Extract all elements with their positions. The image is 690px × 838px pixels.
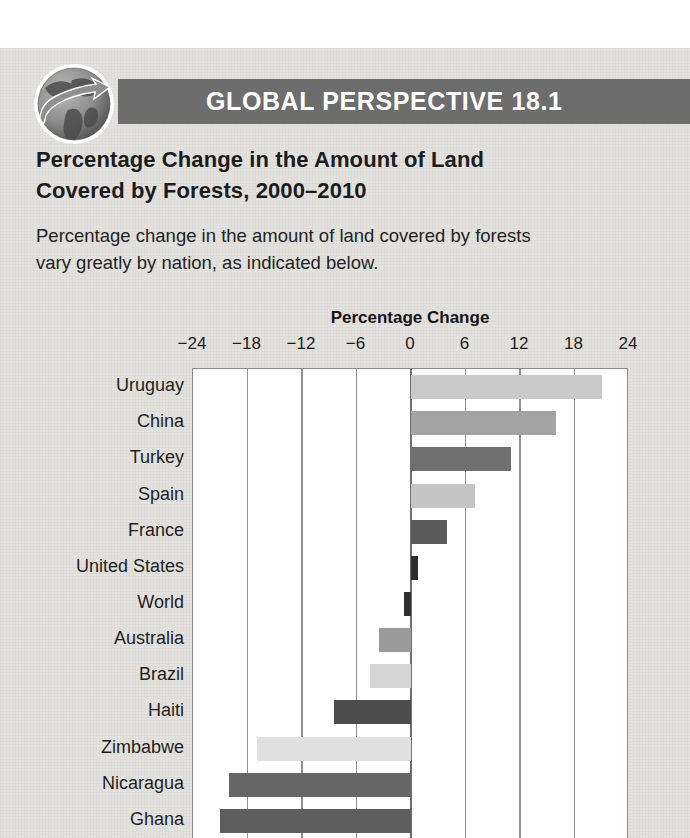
bar bbox=[411, 556, 418, 580]
lead-paragraph: Percentage change in the amount of land … bbox=[36, 222, 654, 276]
bar bbox=[257, 737, 411, 761]
section-banner: GLOBAL PERSPECTIVE 18.1 bbox=[118, 79, 690, 124]
chart-axis-title: Percentage Change bbox=[192, 308, 628, 328]
category-label: China bbox=[6, 411, 192, 432]
category-label: Australia bbox=[6, 628, 192, 649]
globe-with-arrow-icon bbox=[28, 58, 120, 150]
bar bbox=[220, 809, 411, 833]
category-label: Turkey bbox=[6, 447, 192, 468]
bar bbox=[229, 773, 411, 797]
textbook-page: GLOBAL PERSPECTIVE 18.1 Percentage Chang… bbox=[0, 0, 690, 838]
banner-title: GLOBAL PERSPECTIVE 18.1 bbox=[206, 87, 563, 116]
page-title-line-2: Covered by Forests, 2000–2010 bbox=[36, 175, 656, 206]
gridline bbox=[465, 369, 467, 838]
x-tick-label: 0 bbox=[405, 334, 414, 354]
category-label: Zimbabwe bbox=[6, 737, 192, 758]
gridline bbox=[356, 369, 358, 838]
category-label: Nicaragua bbox=[6, 773, 192, 794]
x-tick-label: 18 bbox=[564, 334, 583, 354]
category-label: United States bbox=[6, 556, 192, 577]
gridline bbox=[519, 369, 521, 838]
gridline bbox=[247, 369, 249, 838]
x-tick-label: −6 bbox=[346, 334, 365, 354]
x-tick-label: 12 bbox=[510, 334, 529, 354]
gridline bbox=[301, 369, 303, 838]
x-tick-label: 24 bbox=[619, 334, 638, 354]
plot-area bbox=[192, 368, 628, 838]
category-label: Haiti bbox=[6, 700, 192, 721]
x-axis-tick-labels: −24−18−12−606121824 bbox=[0, 334, 690, 358]
lead-line-1: Percentage change in the amount of land … bbox=[36, 222, 654, 249]
x-tick-label: 6 bbox=[460, 334, 469, 354]
bar bbox=[334, 700, 411, 724]
category-label: World bbox=[6, 592, 192, 613]
bar-chart: Percentage Change −24−18−12−606121824 Ur… bbox=[0, 300, 690, 838]
bar bbox=[411, 411, 556, 435]
lead-line-2: vary greatly by nation, as indicated bel… bbox=[36, 249, 654, 276]
category-label: Brazil bbox=[6, 664, 192, 685]
category-label: France bbox=[6, 520, 192, 541]
x-tick-label: −12 bbox=[287, 334, 316, 354]
bar bbox=[379, 628, 411, 652]
category-label: Uruguay bbox=[6, 375, 192, 396]
bar bbox=[411, 447, 511, 471]
bar bbox=[404, 592, 411, 616]
page-title: Percentage Change in the Amount of Land … bbox=[36, 144, 656, 206]
category-label: Ghana bbox=[6, 809, 192, 830]
category-label: Spain bbox=[6, 484, 192, 505]
page-title-line-1: Percentage Change in the Amount of Land bbox=[36, 144, 656, 175]
x-tick-label: −18 bbox=[232, 334, 261, 354]
category-labels: UruguayChinaTurkeySpainFranceUnited Stat… bbox=[0, 368, 192, 838]
bar bbox=[370, 664, 411, 688]
bar bbox=[411, 375, 602, 399]
gridline bbox=[574, 369, 576, 838]
x-tick-label: −24 bbox=[178, 334, 207, 354]
bar bbox=[411, 520, 447, 544]
bar bbox=[411, 484, 475, 508]
